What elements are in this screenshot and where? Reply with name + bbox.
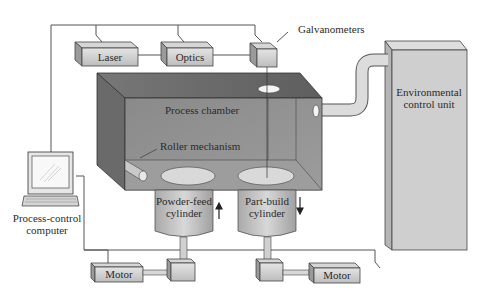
computer-label-line1: Process-control bbox=[13, 212, 81, 224]
galvanometers-box bbox=[250, 43, 277, 67]
part-build-label-line2: cylinder bbox=[249, 207, 285, 219]
part-build-cylinder: Part-build cylinder bbox=[238, 190, 303, 237]
env-label-line2: control unit bbox=[403, 98, 454, 110]
optics-label: Optics bbox=[176, 51, 205, 63]
environment-duct bbox=[318, 60, 388, 110]
powder-feed-cylinder: Powder-feed cylinder bbox=[155, 190, 222, 237]
right-coupling bbox=[283, 270, 309, 275]
motor-right-label: Motor bbox=[323, 269, 351, 281]
motor-left-label: Motor bbox=[105, 268, 133, 280]
process-chamber: Process chamber Roller mechanism bbox=[97, 73, 322, 190]
motor-left: Motor bbox=[91, 263, 143, 282]
part-build-label-line1: Part-build bbox=[245, 195, 289, 207]
motor-right: Motor bbox=[309, 263, 360, 283]
laser-window bbox=[258, 85, 280, 93]
arrow-down-icon bbox=[297, 197, 303, 214]
process-control-computer: Process-control computer bbox=[13, 152, 81, 236]
duct-port bbox=[313, 105, 319, 117]
laser-label: Laser bbox=[98, 51, 123, 63]
roller-mechanism-label: Roller mechanism bbox=[160, 140, 241, 152]
optics-box: Optics bbox=[161, 42, 213, 66]
computer-label-line2: computer bbox=[26, 224, 68, 236]
galvanometers-pointer bbox=[277, 32, 288, 42]
arrow-up-icon bbox=[216, 203, 222, 219]
powder-feed-label-line1: Powder-feed bbox=[156, 195, 212, 207]
env-label-line1: Environmental bbox=[396, 86, 461, 98]
sls-diagram: Laser Optics Galvanometers Environmental… bbox=[0, 0, 481, 296]
laser-box: Laser bbox=[75, 42, 138, 66]
process-chamber-label: Process chamber bbox=[165, 104, 240, 116]
environmental-control-unit: Environmental control unit bbox=[385, 41, 467, 250]
galvanometers-label: Galvanometers bbox=[298, 23, 365, 35]
gearbox-right bbox=[256, 259, 283, 281]
powder-feed-label-line2: cylinder bbox=[166, 207, 202, 219]
gearbox-left bbox=[167, 259, 195, 281]
left-coupling bbox=[143, 270, 169, 275]
